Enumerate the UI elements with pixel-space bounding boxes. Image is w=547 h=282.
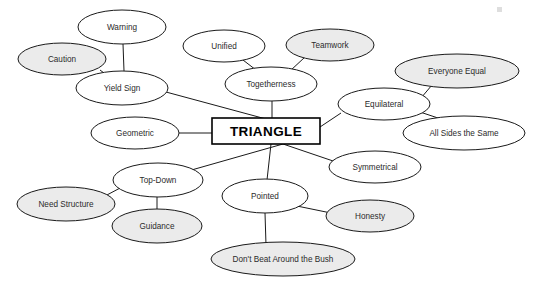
edge-pointed-to-bush	[265, 213, 266, 245]
node-label-symmetric: Symmetrical	[352, 163, 397, 172]
node-label-geometric: Geometric	[116, 129, 154, 138]
edge-center-to-pointed	[267, 144, 271, 180]
node-label-together: Togetherness	[246, 80, 295, 89]
node-label-bush: Don't Beat Around the Bush	[233, 255, 334, 264]
node-needstr[interactable]: Need Structure	[17, 187, 115, 221]
node-warning[interactable]: Warning	[78, 10, 166, 44]
node-together[interactable]: Togetherness	[225, 67, 317, 101]
node-equilat[interactable]: Equilateral	[338, 88, 430, 120]
edge-equilat-to-center	[320, 113, 341, 127]
center-node-layer: TRIANGLE	[212, 118, 320, 144]
node-label-equilat: Equilateral	[365, 100, 404, 109]
node-label-caution: Caution	[48, 55, 77, 64]
node-pointed[interactable]: Pointed	[222, 179, 308, 213]
scan-speck-artifact	[497, 7, 502, 12]
node-bush[interactable]: Don't Beat Around the Bush	[211, 242, 355, 276]
node-label-needstr: Need Structure	[38, 200, 94, 209]
node-label-yield: Yield Sign	[104, 84, 141, 93]
node-yield[interactable]: Yield Sign	[76, 71, 168, 105]
node-label-guidance: Guidance	[139, 222, 174, 231]
mind-map-canvas: WarningCautionYield SignUnifiedTeamworkT…	[0, 0, 547, 282]
node-label-warning: Warning	[107, 23, 138, 32]
node-label-teamwork: Teamwork	[311, 41, 349, 50]
scan-artifact-layer	[497, 7, 502, 12]
node-label-topdown: Top-Down	[140, 176, 177, 185]
node-label-honesty: Honesty	[355, 212, 386, 221]
node-everyone[interactable]: Everyone Equal	[395, 54, 519, 88]
node-honesty[interactable]: Honesty	[326, 200, 414, 232]
node-label-allsides: All Sides the Same	[429, 129, 499, 138]
node-caution[interactable]: Caution	[18, 43, 106, 75]
node-allsides[interactable]: All Sides the Same	[403, 116, 525, 150]
node-label-unified: Unified	[211, 42, 237, 51]
edge-warning-to-yield	[123, 44, 124, 71]
node-label-everyone: Everyone Equal	[428, 67, 486, 76]
node-unified[interactable]: Unified	[183, 30, 265, 62]
edge-center-to-symmetric	[283, 144, 339, 163]
node-teamwork[interactable]: Teamwork	[286, 29, 374, 61]
diagram-svg: WarningCautionYield SignUnifiedTeamworkT…	[0, 0, 547, 282]
center-node-label: TRIANGLE	[230, 124, 302, 139]
node-guidance[interactable]: Guidance	[112, 209, 202, 243]
node-label-pointed: Pointed	[251, 192, 279, 201]
node-symmetric[interactable]: Symmetrical	[329, 151, 421, 183]
node-topdown[interactable]: Top-Down	[113, 163, 203, 197]
node-geometric[interactable]: Geometric	[91, 117, 179, 149]
center-node-triangle[interactable]: TRIANGLE	[212, 118, 320, 144]
